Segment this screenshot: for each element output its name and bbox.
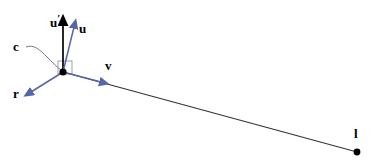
vector-v bbox=[63, 72, 101, 82]
vector-diagram: u′ u v r c l bbox=[0, 0, 376, 164]
label-l: l bbox=[354, 127, 358, 140]
label-u: u bbox=[79, 22, 86, 35]
label-u-prime-mark: ′ bbox=[57, 12, 60, 24]
c-leader-line bbox=[26, 46, 61, 70]
label-u-prime: u′ bbox=[50, 13, 60, 29]
vector-r bbox=[31, 72, 63, 92]
label-v: v bbox=[105, 59, 112, 72]
label-c: c bbox=[13, 40, 19, 53]
label-r: r bbox=[13, 87, 19, 100]
origin-point-c bbox=[59, 68, 66, 75]
sight-line bbox=[63, 72, 357, 152]
target-point-l bbox=[354, 149, 361, 156]
